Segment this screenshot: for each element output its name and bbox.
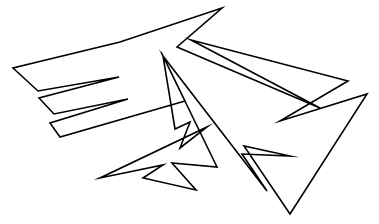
polygon-line-art-svg <box>0 0 379 224</box>
figure-canvas <box>0 0 379 224</box>
